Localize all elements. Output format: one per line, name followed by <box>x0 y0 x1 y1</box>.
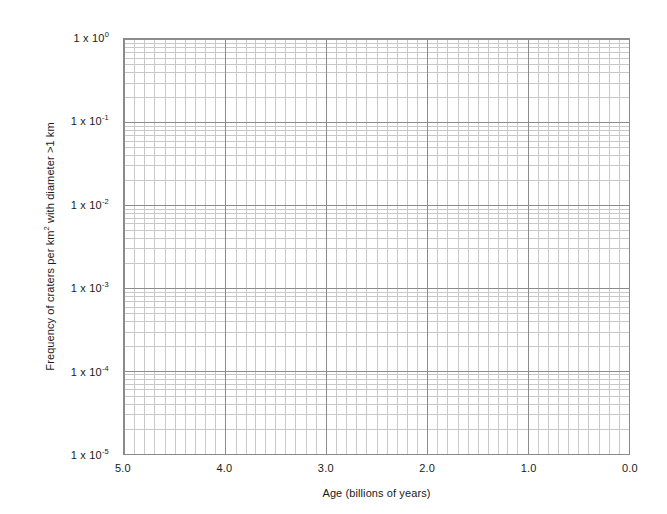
y-tick-mantissa: 1 x 10 <box>71 282 102 294</box>
x-tick-label: 4.0 <box>216 461 232 475</box>
chart-figure: 1 x 1001 x 10-11 x 10-21 x 10-31 x 10-41… <box>0 0 667 514</box>
y-axis-title: Frequency of craters per km2 with diamet… <box>40 38 60 455</box>
x-tick-label: 2.0 <box>419 461 435 475</box>
y-tick-exponent: -2 <box>102 197 109 206</box>
gridlines <box>124 39 629 454</box>
y-axis-title-text-tail: with diameter >1 km <box>44 122 56 226</box>
y-tick-mantissa: 1 x 10 <box>73 32 104 44</box>
x-tick-label: 1.0 <box>521 461 537 475</box>
y-tick-mantissa: 1 x 10 <box>71 366 102 378</box>
y-tick-exponent: -1 <box>102 114 109 123</box>
y-axis-title-text: Frequency of craters per km <box>44 230 56 370</box>
y-tick-mantissa: 1 x 10 <box>71 199 102 211</box>
x-tick-label: 5.0 <box>115 461 131 475</box>
y-tick-label: 1 x 10-1 <box>71 115 117 127</box>
y-tick-mantissa: 1 x 10 <box>71 449 102 461</box>
y-tick-label: 1 x 10-3 <box>71 282 117 294</box>
y-tick-label: 1 x 100 <box>73 32 117 44</box>
x-axis-tick-labels: 5.04.03.02.01.00.0 <box>123 461 630 477</box>
y-tick-exponent: 0 <box>105 30 109 39</box>
x-tick-label: 0.0 <box>622 461 638 475</box>
x-tick-label: 3.0 <box>318 461 334 475</box>
plot-area <box>123 38 630 455</box>
y-axis-title-superscript: 2 <box>42 226 51 230</box>
y-tick-mantissa: 1 x 10 <box>71 115 102 127</box>
y-tick-label: 1 x 10-4 <box>71 366 117 378</box>
y-tick-exponent: -3 <box>102 281 109 290</box>
y-tick-label: 1 x 10-5 <box>71 449 117 461</box>
y-tick-exponent: -5 <box>102 447 109 456</box>
y-tick-label: 1 x 10-2 <box>71 199 117 211</box>
y-tick-exponent: -4 <box>102 364 109 373</box>
x-axis-title: Age (billions of years) <box>123 486 630 500</box>
